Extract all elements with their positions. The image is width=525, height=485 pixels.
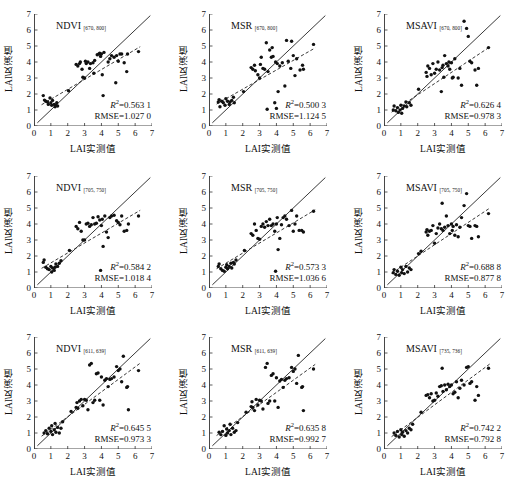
y-tick-label: 4 <box>27 58 32 67</box>
data-point <box>433 72 436 75</box>
plot-area: 0011223344556677MSR [705, 750]R2=0.573 3… <box>209 176 327 288</box>
data-point <box>271 46 274 49</box>
data-point <box>101 73 104 76</box>
data-point <box>453 233 456 236</box>
plot-area: 0011223344556677MSR [670, 800]R2=0.500 3… <box>209 14 327 126</box>
data-point <box>126 52 129 55</box>
panel-title: MSR [611, 639] <box>231 343 277 354</box>
data-point <box>105 230 108 233</box>
scatter-panel-3: LAI反演值LAI实测值0011223344556677MSAVI [670, … <box>350 0 525 162</box>
figure-grid: LAI反演值LAI实测值0011223344556677NDVI [670, 8… <box>0 0 525 485</box>
data-point <box>51 99 54 102</box>
panel-title-index: NDVI <box>56 343 81 354</box>
y-tick-label: 2 <box>202 413 207 422</box>
data-point <box>253 409 256 412</box>
data-point <box>285 217 288 220</box>
y-tick-label: 6 <box>27 26 32 35</box>
r-squared-value: R2=0.635 8 <box>269 421 326 434</box>
plot-area: 0011223344556677NDVI [670, 800]R2=0.563 … <box>34 14 152 126</box>
data-point <box>283 84 286 87</box>
data-point <box>419 411 422 414</box>
y-tick-label: 0 <box>377 445 382 454</box>
x-tick-label: 7 <box>150 291 155 300</box>
y-axis-label: LAI反演值 <box>177 339 190 443</box>
x-tick-label: 5 <box>116 291 121 300</box>
x-tick-label: 6 <box>133 129 138 138</box>
scatter-panel-8: LAI反演值LAI实测值0011223344556677MSR [611, 63… <box>175 323 350 485</box>
plot-area: 0011223344556677MSAVI [705, 750]R2=0.688… <box>384 176 502 288</box>
x-tick-label: 5 <box>291 129 296 138</box>
y-tick-label: 2 <box>202 90 207 99</box>
data-point <box>467 365 470 368</box>
data-point <box>406 432 409 435</box>
data-point <box>441 390 444 393</box>
data-point <box>403 435 406 438</box>
x-tick-label: 4 <box>449 291 454 300</box>
y-tick-label: 0 <box>377 122 382 131</box>
x-tick-label: 6 <box>133 452 138 461</box>
data-point <box>260 56 263 59</box>
y-tick-label: 1 <box>202 267 207 276</box>
data-point <box>487 367 490 370</box>
x-tick-label: 1 <box>224 129 229 138</box>
data-point <box>217 262 220 265</box>
data-point <box>268 217 271 220</box>
stats-annotation: R2=0.584 2RMSE=1.018 4 <box>94 260 151 284</box>
data-point <box>467 35 470 38</box>
stats-annotation: R2=0.563 1RMSE=1.027 0 <box>94 98 151 122</box>
data-point <box>115 54 118 57</box>
data-point <box>456 76 459 79</box>
data-point <box>232 96 235 99</box>
y-axis-label: LAI反演值 <box>352 339 365 443</box>
data-point <box>46 432 49 435</box>
data-point <box>112 213 115 216</box>
y-tick-label: 0 <box>377 283 382 292</box>
data-point <box>287 60 290 63</box>
y-tick-label: 3 <box>377 235 382 244</box>
panel-title: NDVI [705, 750] <box>56 182 106 193</box>
data-point <box>68 248 71 251</box>
data-point <box>302 230 305 233</box>
y-axis-label: LAI反演值 <box>2 339 15 443</box>
data-point <box>455 380 458 383</box>
data-point <box>261 408 264 411</box>
data-point <box>80 68 83 71</box>
y-tick-label: 1 <box>27 267 32 276</box>
y-tick-label: 0 <box>202 122 207 131</box>
data-point <box>399 104 402 107</box>
stats-annotation: R2=0.645 5RMSE=0.973 3 <box>94 421 151 445</box>
x-tick-label: 1 <box>399 291 404 300</box>
x-tick-label: 3 <box>82 452 87 461</box>
y-tick-label: 3 <box>202 397 207 406</box>
data-point <box>234 429 237 432</box>
y-tick-label: 4 <box>377 381 382 390</box>
x-tick-label: 2 <box>415 452 420 461</box>
stats-annotation: R2=0.742 2RMSE=0.792 8 <box>444 421 501 445</box>
panel-title: NDVI [611, 639] <box>56 343 106 354</box>
y-tick-label: 3 <box>202 74 207 83</box>
data-point <box>115 365 118 368</box>
data-point <box>442 76 445 79</box>
rmse-value: RMSE=0.973 3 <box>94 434 151 445</box>
y-tick-label: 1 <box>27 429 32 438</box>
data-point <box>80 398 83 401</box>
y-tick-label: 4 <box>202 219 207 228</box>
data-point <box>276 62 279 65</box>
data-point <box>92 72 95 75</box>
y-tick-label: 4 <box>377 58 382 67</box>
data-point <box>67 89 70 92</box>
data-point <box>271 372 274 375</box>
data-point <box>417 252 420 255</box>
stats-annotation: R2=0.635 8RMSE=0.992 7 <box>269 421 326 445</box>
data-point <box>69 410 72 413</box>
data-point <box>470 380 473 383</box>
x-tick-label: 2 <box>65 452 70 461</box>
stats-annotation: R2=0.500 3RMSE=1.124 5 <box>269 98 326 122</box>
data-point <box>101 404 104 407</box>
data-point <box>137 369 140 372</box>
data-point <box>285 39 288 42</box>
data-point <box>101 217 104 220</box>
data-point <box>281 386 284 389</box>
r-squared-value: R2=0.563 1 <box>94 98 151 111</box>
x-tick-label: 1 <box>49 129 54 138</box>
